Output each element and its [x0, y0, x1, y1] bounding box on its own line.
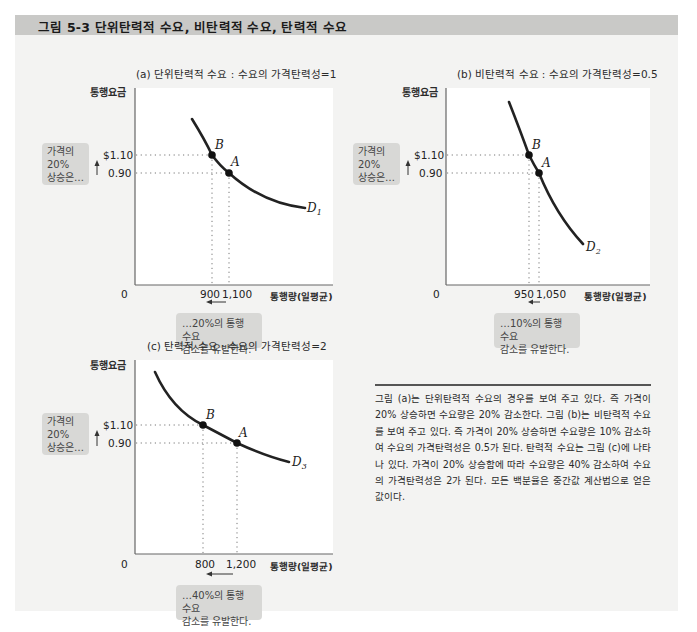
chart-c-xtick-high: 1,200: [226, 558, 256, 570]
chart-c-price-callout: 가격의 20% 상승은…: [42, 413, 89, 455]
chart-c-xtick-low: 800: [195, 558, 215, 570]
chart-c-point-b-label: B: [206, 408, 215, 422]
chart-c-quantity-callout: …40%의 통행 수요 감소를 유발한다.: [176, 585, 262, 620]
description-rule: [375, 384, 651, 386]
chart-c-ytick-low: 0.90: [108, 437, 131, 449]
chart-c-graphic: [0, 0, 697, 632]
chart-c-origin: 0: [121, 558, 128, 570]
chart-c-point-a-label: A: [239, 426, 248, 440]
figure-description: 그림 (a)는 단위탄력적 수요의 경우를 보여 주고 있다. 즉 가격이 20…: [375, 391, 651, 506]
chart-c-curve-label: D3: [292, 455, 307, 471]
chart-c-ytick-high: $1.10: [103, 419, 133, 431]
chart-c-xlabel: 통행량(일평균): [270, 559, 333, 573]
